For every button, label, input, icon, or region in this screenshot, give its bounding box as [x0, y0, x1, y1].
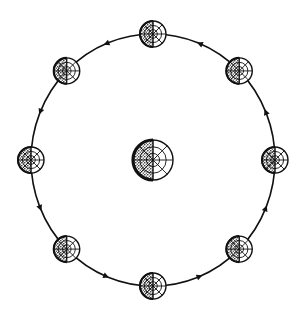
orbit-diagram — [0, 0, 305, 320]
diagram-canvas — [0, 0, 305, 320]
central-globe — [133, 140, 173, 180]
orbiting-globe-bottom-left — [54, 236, 80, 262]
orbiting-globe-left — [18, 147, 44, 173]
orbiting-globe-bottom-right — [226, 236, 252, 262]
orbiting-globe-top-left — [54, 58, 80, 84]
orbiting-globe-top — [140, 21, 166, 47]
orbiting-globe-top-right — [226, 58, 252, 84]
orbiting-globe-bottom — [140, 273, 166, 299]
orbiting-globe-right — [262, 147, 288, 173]
globe-layer — [18, 21, 288, 299]
